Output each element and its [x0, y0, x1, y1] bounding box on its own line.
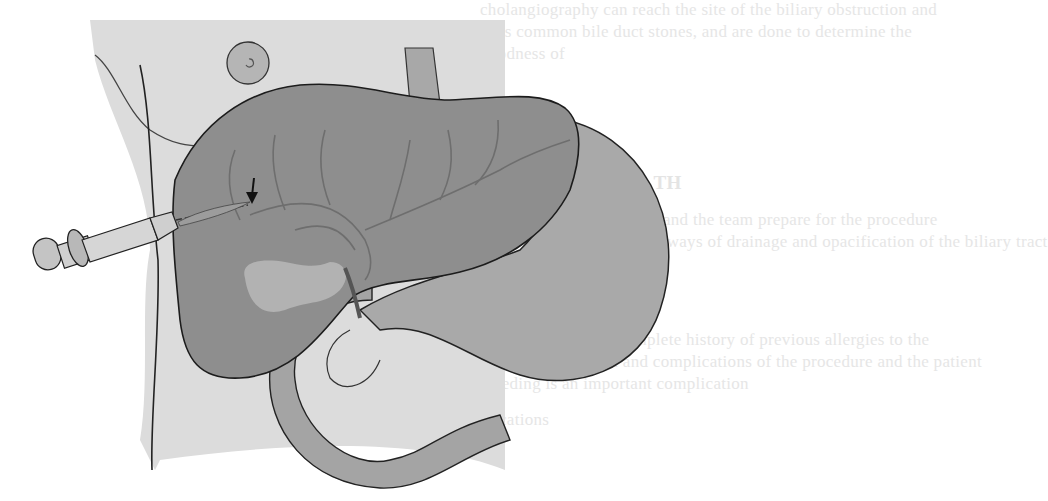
umbilicus-icon [227, 42, 269, 84]
